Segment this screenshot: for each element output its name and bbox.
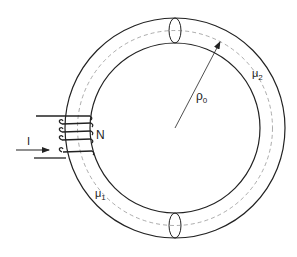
mu2-label: μ2: [252, 67, 263, 82]
radius-label: ρ0: [196, 89, 208, 105]
mu1-label: μ1: [95, 187, 106, 202]
radius-arrow: [175, 42, 220, 128]
current-label: I: [27, 135, 30, 147]
coil-winding: [34, 116, 94, 158]
turns-label: N: [96, 128, 105, 142]
toroid-diagram: ρ0 μ2 μ1 N I: [0, 0, 297, 257]
